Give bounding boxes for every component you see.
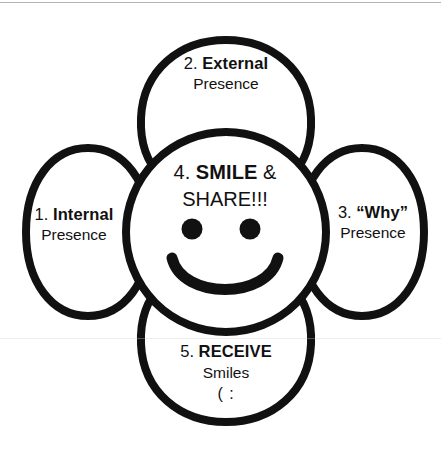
scan-edge-line-lower xyxy=(0,338,441,339)
petal-bottom-title: RECEIVE xyxy=(199,342,272,360)
petal-bottom-subtitle: Smiles xyxy=(131,364,321,382)
petal-bottom-emoticon: ( : xyxy=(131,385,321,404)
flower-diagram-canvas: 2. External Presence 1. Internal Presenc… xyxy=(0,0,441,454)
right-eye-icon xyxy=(240,219,261,240)
petal-label-right: 3. “Why” Presence xyxy=(310,203,436,243)
petal-top-step-number: 2. xyxy=(184,54,202,72)
center-title-rest: & xyxy=(257,161,276,183)
center-label: 4. SMILE & SHARE!!! xyxy=(132,161,318,211)
petal-left-step-number: 1. xyxy=(35,205,53,223)
petal-label-bottom: 5. RECEIVE Smiles ( : xyxy=(131,342,321,404)
petal-label-top: 2. External Presence xyxy=(131,54,321,94)
petal-label-left: 1. Internal Presence xyxy=(8,205,140,245)
center-title-bold: SMILE xyxy=(196,161,258,183)
petal-top-title: External xyxy=(202,54,268,72)
petal-left-title: Internal xyxy=(53,205,113,223)
petal-right-subtitle: Presence xyxy=(310,224,436,242)
petal-right-step-number: 3. xyxy=(338,203,356,221)
center-line-two: SHARE!!! xyxy=(132,188,318,212)
petal-top-subtitle: Presence xyxy=(131,75,321,93)
petal-bottom-step-number: 5. xyxy=(180,342,198,360)
left-eye-icon xyxy=(182,219,203,240)
petal-left-subtitle: Presence xyxy=(8,226,140,244)
center-step-number: 4. xyxy=(174,161,196,183)
petal-right-title: “Why” xyxy=(356,203,408,221)
